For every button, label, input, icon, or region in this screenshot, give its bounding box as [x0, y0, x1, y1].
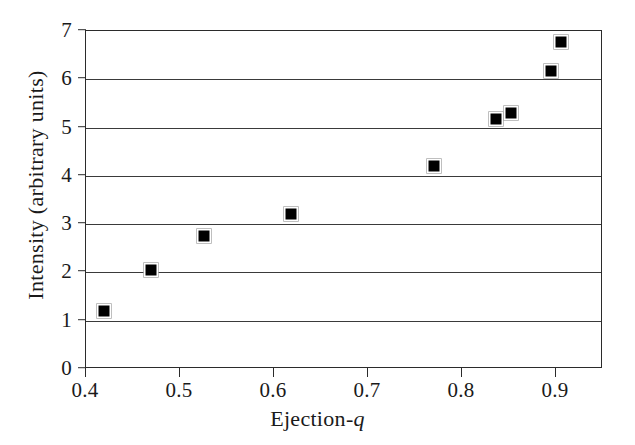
x-axis-tick-0.6 [273, 368, 274, 377]
x-axis-tick-label: 0.9 [520, 380, 590, 401]
gridline-y-3 [86, 224, 601, 225]
x-axis-tick-0.9 [555, 368, 556, 377]
x-axis-tick-label: 0.7 [332, 380, 402, 401]
data-point [488, 111, 503, 126]
data-point [143, 263, 158, 278]
x-axis-tick-label: 0.4 [50, 380, 120, 401]
gridline-y-5 [86, 128, 601, 129]
data-point [426, 159, 441, 174]
gridline-y-2 [86, 272, 601, 273]
gridline-y-6 [86, 79, 601, 80]
gridline-y-1 [86, 321, 601, 322]
x-axis-title-symbol: q [354, 406, 365, 431]
y-axis-tick-4 [78, 174, 86, 175]
x-axis-title: Ejection-q [0, 406, 635, 432]
data-point [544, 63, 559, 78]
data-point [503, 106, 518, 121]
x-axis-tick-0.7 [367, 368, 368, 377]
x-axis-tick-0.5 [179, 368, 180, 377]
y-axis-tick-5 [78, 126, 86, 127]
data-point [96, 304, 111, 319]
data-point [283, 207, 298, 222]
x-axis-title-text: Ejection- [270, 406, 353, 431]
y-axis-tick-1 [78, 319, 86, 320]
data-point [553, 34, 568, 49]
y-axis-tick-3 [78, 222, 86, 223]
y-axis-tick-6 [78, 77, 86, 78]
y-axis-title: Intensity (arbitrary units) [23, 5, 49, 365]
plot-area [85, 30, 602, 368]
x-axis-tick-0.4 [85, 368, 86, 377]
x-axis-tick-label: 0.6 [238, 380, 308, 401]
gridline-y-4 [86, 176, 601, 177]
data-point [196, 228, 211, 243]
x-axis-tick-label: 0.5 [144, 380, 214, 401]
x-axis-tick-label: 0.8 [426, 380, 496, 401]
y-axis-tick-2 [78, 271, 86, 272]
scatter-chart-figure: 01234567 Ejection-q Intensity (arbitrary… [0, 0, 635, 445]
y-axis-tick-7 [78, 29, 86, 30]
x-axis-tick-0.8 [461, 368, 462, 377]
